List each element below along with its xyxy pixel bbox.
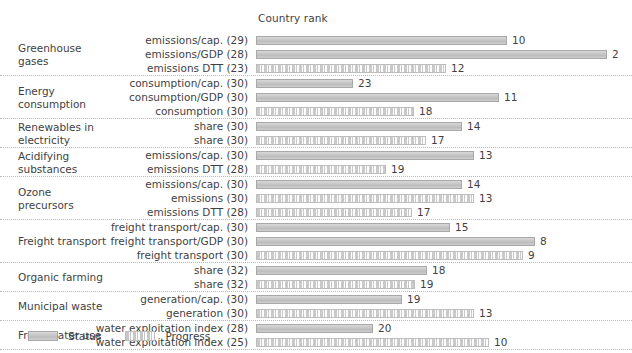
status-bar [256, 324, 373, 333]
chart-row: emissions/cap. (29)10 [0, 33, 632, 47]
bar-area: 14 [256, 177, 632, 191]
indicator-label: freight transport/GDP (30) [0, 234, 248, 248]
indicator-label: emissions/cap. (30) [0, 148, 248, 162]
indicator-label: consumption/GDP (30) [0, 90, 248, 104]
indicator-label: emissions DTT (28) [0, 205, 248, 219]
status-bar [256, 180, 462, 189]
chart-group: Acidifying substancesemissions/cap. (30)… [0, 148, 632, 177]
bar-area: 17 [256, 133, 632, 147]
bar-area: 20 [256, 321, 632, 335]
chart-row: generation (30)13 [0, 306, 632, 320]
bar-value-label: 14 [467, 177, 480, 191]
bar-value-label: 10 [494, 335, 507, 349]
status-bar [256, 122, 462, 131]
status-bar [256, 93, 499, 102]
chart-plot-area: Greenhouse gasesemissions/cap. (29)10emi… [0, 33, 632, 350]
bar-value-label: 2 [612, 47, 619, 61]
bar-value-label: 11 [504, 90, 517, 104]
country-rank-chart: Country rank Greenhouse gasesemissions/c… [0, 0, 632, 353]
progress-bar [256, 136, 426, 145]
status-bar [256, 50, 607, 59]
chart-group: Freight transportfreight transport/cap. … [0, 220, 632, 263]
chart-row: share (32)19 [0, 277, 632, 291]
bar-value-label: 9 [528, 248, 535, 262]
chart-row: freight transport/GDP (30)8 [0, 234, 632, 248]
bar-area: 17 [256, 205, 632, 219]
chart-legend: StatusProgress [28, 330, 234, 342]
bar-value-label: 10 [512, 33, 525, 47]
bar-area: 14 [256, 119, 632, 133]
indicator-label: emissions DTT (28) [0, 162, 248, 176]
bar-area: 19 [256, 292, 632, 306]
bar-value-label: 17 [431, 133, 444, 147]
bar-value-label: 13 [479, 148, 492, 162]
indicator-label: emissions DTT (23) [0, 61, 248, 75]
indicator-label: emissions/cap. (30) [0, 177, 248, 191]
bar-value-label: 15 [455, 220, 468, 234]
chart-row: emissions/cap. (30)14 [0, 177, 632, 191]
status-bar [256, 79, 353, 88]
bar-value-label: 17 [417, 205, 430, 219]
chart-row: consumption/cap. (30)23 [0, 76, 632, 90]
indicator-label: emissions (30) [0, 191, 248, 205]
chart-row: emissions (30)13 [0, 191, 632, 205]
status-bar [256, 266, 427, 275]
bar-area: 23 [256, 76, 632, 90]
bar-value-label: 19 [407, 292, 420, 306]
bar-area: 12 [256, 61, 632, 75]
indicator-label: generation/cap. (30) [0, 292, 248, 306]
indicator-label: consumption/cap. (30) [0, 76, 248, 90]
chart-group: Municipal wastegeneration/cap. (30)19gen… [0, 292, 632, 321]
bar-value-label: 12 [451, 61, 464, 75]
chart-row: emissions/GDP (28)2 [0, 47, 632, 61]
indicator-label: emissions/GDP (28) [0, 47, 248, 61]
chart-group: Ozone precursorsemissions/cap. (30)14emi… [0, 177, 632, 220]
indicator-label: share (32) [0, 263, 248, 277]
progress-bar [256, 107, 414, 116]
status-bar [256, 237, 535, 246]
chart-group: Organic farmingshare (32)18share (32)19 [0, 263, 632, 292]
status-bar [256, 151, 474, 160]
indicator-label: consumption (30) [0, 104, 248, 118]
bar-value-label: 23 [358, 76, 371, 90]
chart-row: emissions/cap. (30)13 [0, 148, 632, 162]
indicator-label: generation (30) [0, 306, 248, 320]
status-bar [256, 36, 507, 45]
indicator-label: freight transport/cap. (30) [0, 220, 248, 234]
legend-label: Progress [165, 330, 210, 342]
bar-area: 10 [256, 33, 632, 47]
chart-row: freight transport/cap. (30)15 [0, 220, 632, 234]
chart-row: emissions DTT (23)12 [0, 61, 632, 75]
chart-group: Greenhouse gasesemissions/cap. (29)10emi… [0, 33, 632, 76]
bar-area: 18 [256, 104, 632, 118]
progress-bar [256, 64, 446, 73]
progress-bar [256, 194, 474, 203]
legend-item-status: Status [28, 330, 125, 342]
status-swatch-icon [28, 331, 58, 341]
bar-value-label: 14 [467, 119, 480, 133]
bar-value-label: 19 [391, 162, 404, 176]
chart-row: generation/cap. (30)19 [0, 292, 632, 306]
bar-area: 13 [256, 191, 632, 205]
indicator-label: emissions/cap. (29) [0, 33, 248, 47]
indicator-label: share (30) [0, 133, 248, 147]
chart-row: share (32)18 [0, 263, 632, 277]
chart-row: emissions DTT (28)19 [0, 162, 632, 176]
bar-area: 15 [256, 220, 632, 234]
bar-area: 10 [256, 335, 632, 349]
bar-area: 2 [256, 47, 632, 61]
status-bar [256, 295, 402, 304]
progress-bar [256, 280, 415, 289]
progress-bar [256, 165, 386, 174]
indicator-label: share (30) [0, 119, 248, 133]
chart-group: Energy consumptionconsumption/cap. (30)2… [0, 76, 632, 119]
status-bar [256, 223, 450, 232]
legend-item-progress: Progress [125, 330, 234, 342]
legend-label: Status [68, 330, 101, 342]
progress-swatch-icon [125, 331, 155, 341]
chart-title: Country rank [258, 12, 328, 24]
bar-value-label: 8 [540, 234, 547, 248]
bar-area: 11 [256, 90, 632, 104]
indicator-label: freight transport (30) [0, 248, 248, 262]
bar-area: 8 [256, 234, 632, 248]
